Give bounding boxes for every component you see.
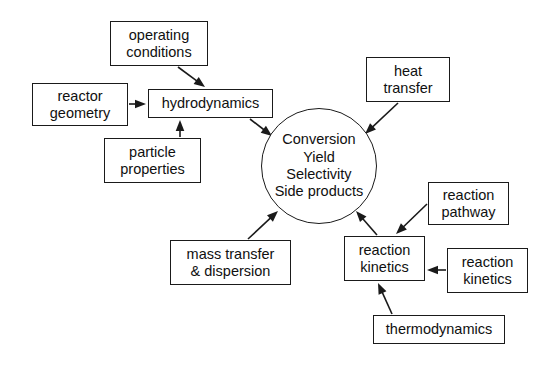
central-outcome-circle: Conversion Yield Selectivity Side produc… [261, 108, 377, 224]
node-label: reactor geometry [50, 88, 110, 120]
arrow-kinetics-to-hub [356, 211, 377, 235]
node-reaction-kinetics-main: reaction kinetics [344, 236, 425, 281]
arrow-thermo-to-kinetics [378, 283, 392, 314]
node-label: hydrodynamics [162, 95, 260, 111]
node-label: heat transfer [383, 63, 432, 95]
node-label: reaction pathway [441, 187, 495, 219]
node-label: reaction kinetics [462, 254, 514, 286]
node-thermodynamics: thermodynamics [373, 315, 505, 344]
node-operating-conditions: operating conditions [110, 21, 208, 66]
arrow-hydrodynamics-to-hub [250, 119, 272, 136]
diagram-canvas: Conversion Yield Selectivity Side produc… [0, 0, 552, 365]
node-hydrodynamics: hydrodynamics [148, 89, 273, 118]
node-label: thermodynamics [386, 321, 492, 337]
node-label: particle properties [120, 144, 184, 176]
arrow-particle-to-hydrodynamics [176, 120, 185, 137]
node-particle-properties: particle properties [104, 138, 201, 183]
node-reaction-kinetics-right: reaction kinetics [447, 248, 528, 293]
arrow-reactor-to-hydrodynamics [129, 100, 146, 109]
node-reaction-pathway: reaction pathway [428, 182, 509, 225]
node-mass-transfer: mass transfer & dispersion [170, 240, 291, 285]
node-label: operating conditions [126, 27, 191, 59]
central-outcome-label: Conversion Yield Selectivity Side produc… [275, 131, 364, 201]
node-label: reaction kinetics [359, 242, 411, 274]
arrow-pathway-to-kinetics [396, 204, 427, 234]
node-reactor-geometry: reactor geometry [32, 83, 128, 126]
node-heat-transfer: heat transfer [366, 57, 450, 102]
node-label: mass transfer & dispersion [187, 246, 275, 278]
arrow-heat-to-hub [365, 103, 398, 134]
arrow-mass-to-hub [248, 211, 278, 239]
arrow-operating-to-hydrodynamics [178, 67, 205, 87]
arrow-kineticsright-to-kinetics [427, 266, 446, 275]
